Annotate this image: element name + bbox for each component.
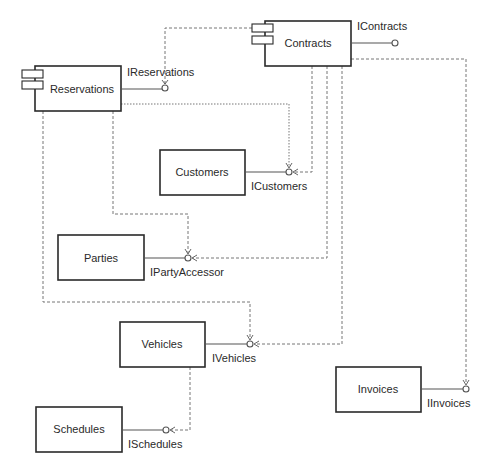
component-icon — [252, 36, 273, 44]
component-label: Contracts — [284, 37, 332, 49]
component-schedules[interactable]: Schedules — [36, 407, 122, 452]
dep-contracts-icustomers — [294, 66, 312, 172]
dep-vehicles-ischedules — [171, 367, 190, 430]
lollipop-icon — [463, 386, 469, 392]
component-contracts[interactable]: Contracts — [252, 21, 351, 66]
interface-label: ICustomers — [251, 180, 308, 192]
interface-ipartyaccessor[interactable]: IPartyAccessor — [144, 249, 224, 278]
interface-icontracts[interactable]: IContracts — [351, 20, 408, 46]
lollipop-icon — [185, 255, 191, 261]
interface-ireservations[interactable]: IReservations — [121, 66, 195, 91]
component-label: Schedules — [53, 423, 105, 435]
interface-label: IVehicles — [212, 352, 257, 364]
component-icon — [22, 70, 43, 78]
interface-icustomers[interactable]: ICustomers — [245, 163, 308, 192]
component-diagram: Contracts IContracts Reservations IReser… — [0, 0, 485, 474]
interface-iinvoices[interactable]: IInvoices — [421, 380, 471, 409]
component-label: Customers — [175, 166, 229, 178]
dep-reservations-ivehicles — [43, 111, 250, 339]
interface-label: IContracts — [357, 20, 408, 32]
component-vehicles[interactable]: Vehicles — [120, 322, 205, 367]
component-icon — [22, 81, 43, 89]
lollipop-icon — [286, 169, 292, 175]
component-label: Invoices — [358, 383, 399, 395]
interface-label: IReservations — [127, 66, 195, 78]
lollipop-icon — [392, 40, 398, 46]
interface-label: ISchedules — [128, 438, 183, 450]
lollipop-icon — [163, 427, 169, 433]
interface-label: IPartyAccessor — [150, 266, 224, 278]
interface-label: IInvoices — [427, 397, 471, 409]
interface-ischedules[interactable]: ISchedules — [122, 427, 183, 450]
component-customers[interactable]: Customers — [160, 150, 245, 195]
component-reservations[interactable]: Reservations — [22, 66, 121, 111]
component-icon — [252, 24, 273, 32]
dep-contracts-ivehicles — [255, 66, 342, 344]
lollipop-icon — [162, 85, 168, 91]
lollipop-icon — [247, 341, 253, 347]
component-label: Vehicles — [142, 338, 183, 350]
component-invoices[interactable]: Invoices — [336, 367, 421, 412]
component-parties[interactable]: Parties — [58, 235, 144, 280]
component-label: Parties — [84, 252, 119, 264]
component-label: Reservations — [50, 83, 115, 95]
interface-ivehicles[interactable]: IVehicles — [205, 335, 259, 364]
dep-contracts-iinvoices — [351, 59, 466, 384]
